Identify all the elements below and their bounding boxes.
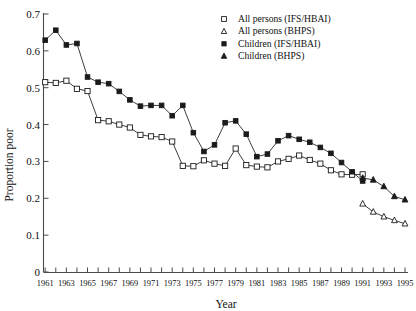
data-point bbox=[85, 75, 90, 80]
data-point bbox=[74, 86, 79, 91]
legend-label: All persons (IFS/HBAI) bbox=[238, 13, 331, 25]
data-point bbox=[360, 200, 366, 206]
data-point bbox=[286, 156, 291, 161]
data-point bbox=[307, 157, 312, 162]
data-point bbox=[117, 89, 122, 94]
data-point bbox=[180, 163, 185, 168]
data-point bbox=[339, 160, 344, 165]
data-point bbox=[201, 158, 206, 163]
x-tick-label: 1961 bbox=[37, 279, 54, 288]
data-point bbox=[265, 165, 270, 170]
x-tick-label: 1969 bbox=[121, 279, 138, 288]
legend-label: Children (IFS/HBAI) bbox=[238, 38, 320, 50]
data-point bbox=[43, 80, 48, 85]
data-point bbox=[329, 151, 334, 156]
data-point bbox=[53, 80, 58, 85]
data-point bbox=[276, 138, 281, 143]
series-open-square bbox=[43, 78, 366, 177]
data-point bbox=[370, 209, 376, 215]
y-axis-ticks bbox=[44, 14, 49, 272]
x-tick-label: 1991 bbox=[354, 279, 371, 288]
x-tick-label: 1967 bbox=[100, 279, 117, 288]
y-axis-title: Proportion poor bbox=[3, 128, 16, 201]
data-point bbox=[233, 146, 238, 151]
data-point bbox=[392, 193, 398, 199]
plot-axes bbox=[44, 13, 409, 273]
legend-marker-filled-square bbox=[222, 42, 226, 46]
y-tick-label: 0.6 bbox=[26, 45, 40, 57]
data-point bbox=[233, 119, 238, 124]
x-axis-title: Year bbox=[215, 298, 236, 310]
data-point bbox=[381, 183, 387, 189]
data-point bbox=[212, 143, 217, 148]
data-point bbox=[191, 164, 196, 169]
data-point bbox=[117, 122, 122, 127]
data-point bbox=[191, 130, 196, 135]
x-tick-label: 1993 bbox=[375, 279, 392, 288]
x-tick-label: 1985 bbox=[291, 279, 308, 288]
data-point bbox=[223, 163, 228, 168]
data-point bbox=[64, 43, 69, 48]
data-point bbox=[148, 134, 153, 139]
data-point bbox=[138, 104, 143, 109]
x-tick-label: 1981 bbox=[248, 279, 265, 288]
y-tick-label: 0.7 bbox=[26, 8, 40, 20]
legend-marker-open-square bbox=[222, 17, 227, 22]
proportion-poor-line-chart: 00.10.20.30.40.50.60.7 19611963196519671… bbox=[0, 0, 416, 311]
x-tick-label: 1965 bbox=[79, 279, 96, 288]
data-point bbox=[43, 38, 48, 43]
x-axis-ticks bbox=[45, 268, 405, 273]
data-point bbox=[318, 161, 323, 166]
x-tick-label: 1977 bbox=[206, 279, 223, 288]
x-tick-label: 1975 bbox=[185, 279, 202, 288]
x-tick-label: 1973 bbox=[164, 279, 181, 288]
x-axis-tick-labels: 1961196319651967196919711973197519771979… bbox=[37, 279, 414, 288]
data-point bbox=[106, 119, 111, 124]
data-point bbox=[307, 140, 312, 145]
data-point bbox=[350, 169, 355, 174]
data-point bbox=[85, 88, 90, 93]
data-point bbox=[149, 103, 154, 108]
data-point bbox=[64, 78, 69, 83]
legend-label: Children (BHPS) bbox=[238, 50, 304, 62]
y-tick-label: 0.4 bbox=[26, 119, 40, 131]
x-tick-label: 1971 bbox=[143, 279, 160, 288]
y-tick-label: 0 bbox=[35, 266, 41, 278]
x-tick-label: 1989 bbox=[333, 279, 350, 288]
data-point bbox=[170, 113, 175, 118]
data-point bbox=[170, 139, 175, 144]
data-point bbox=[75, 41, 80, 46]
legend-marker-open-triangle bbox=[221, 28, 226, 33]
x-tick-label: 1963 bbox=[58, 279, 75, 288]
data-point bbox=[159, 135, 164, 140]
data-point bbox=[265, 152, 270, 157]
data-point bbox=[138, 132, 143, 137]
data-point bbox=[180, 103, 185, 108]
series-filled-triangle bbox=[360, 175, 408, 202]
y-tick-label: 0.1 bbox=[26, 229, 40, 241]
data-point bbox=[159, 103, 164, 108]
data-point bbox=[202, 149, 207, 154]
x-tick-label: 1987 bbox=[312, 279, 329, 288]
data-point bbox=[255, 154, 260, 159]
data-point bbox=[244, 132, 249, 137]
data-point bbox=[223, 120, 228, 125]
y-tick-label: 0.2 bbox=[26, 192, 40, 204]
series-open-triangle bbox=[360, 200, 408, 226]
x-tick-label: 1995 bbox=[397, 279, 414, 288]
data-point bbox=[96, 118, 101, 123]
data-point bbox=[275, 159, 280, 164]
chart-legend: All persons (IFS/HBAI)All persons (BHPS)… bbox=[221, 13, 330, 62]
data-point bbox=[286, 133, 291, 138]
data-point bbox=[297, 153, 302, 158]
y-tick-label: 0.3 bbox=[26, 155, 40, 167]
legend-marker-filled-triangle bbox=[221, 53, 226, 58]
data-point bbox=[328, 168, 333, 173]
data-point bbox=[244, 163, 249, 168]
data-point bbox=[339, 172, 344, 177]
y-tick-label: 0.5 bbox=[26, 82, 40, 94]
data-point bbox=[96, 80, 101, 85]
data-point bbox=[128, 98, 133, 103]
data-point bbox=[127, 125, 132, 130]
x-tick-label: 1979 bbox=[227, 279, 244, 288]
